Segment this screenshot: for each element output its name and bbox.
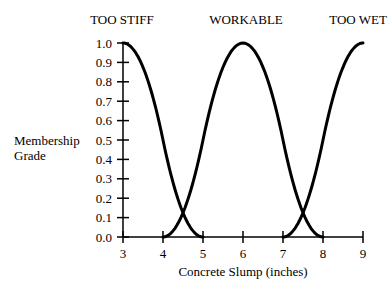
- x-axis-label: Concrete Slump (inches): [178, 264, 307, 279]
- x-tick-label: 5: [200, 246, 207, 261]
- x-tick-label: 6: [240, 246, 247, 261]
- y-tick-label: 0.5: [96, 133, 112, 148]
- y-tick-label: 0.9: [96, 55, 112, 70]
- y-tick-label: 0.3: [96, 171, 112, 186]
- curve-too-stiff: [123, 43, 203, 237]
- membership-curves: [123, 43, 363, 237]
- y-tick-label: 0.7: [96, 94, 113, 109]
- y-tick-label: 0.4: [96, 152, 113, 167]
- y-tick-label: 1.0: [96, 36, 112, 51]
- y-tick-labels: 0.00.10.20.30.40.50.60.70.80.91.0: [96, 36, 113, 245]
- y-axis-label-line1: Membership: [14, 133, 80, 148]
- x-tick-label: 4: [160, 246, 167, 261]
- x-tick-label: 8: [320, 246, 327, 261]
- y-tick-label: 0.2: [96, 191, 112, 206]
- label-workable: WORKABLE: [209, 12, 283, 27]
- y-tick-label: 0.1: [96, 210, 112, 225]
- x-tick-label: 3: [120, 246, 127, 261]
- y-tick-label: 0.6: [96, 113, 113, 128]
- curve-too-wet: [283, 43, 363, 237]
- y-axis-label-line2: Grade: [14, 148, 46, 163]
- y-tick-label: 0.0: [96, 230, 112, 245]
- axes: [117, 43, 363, 243]
- membership-chart: 0.00.10.20.30.40.50.60.70.80.91.0 345678…: [0, 0, 388, 295]
- x-tick-labels: 3456789: [120, 246, 367, 261]
- label-too-stiff: TOO STIFF: [90, 12, 154, 27]
- curve-workable: [163, 43, 323, 237]
- x-tick-label: 7: [280, 246, 287, 261]
- label-too-wet: TOO WET: [329, 12, 387, 27]
- y-tick-label: 0.8: [96, 74, 112, 89]
- x-tick-label: 9: [360, 246, 367, 261]
